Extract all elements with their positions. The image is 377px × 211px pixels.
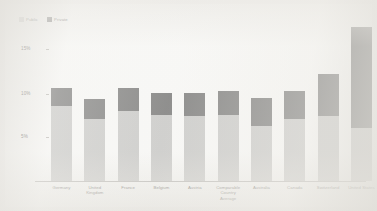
bar-segment-public[interactable] (51, 106, 72, 181)
y-axis-tick-label-15: 15% (21, 46, 47, 52)
x-axis-label: Belgium (146, 185, 176, 201)
bar-stack[interactable] (118, 88, 139, 181)
bar-segment-private[interactable] (151, 93, 172, 115)
x-axis-line (35, 181, 366, 182)
bar-segment-public[interactable] (284, 119, 305, 181)
bar-segment-private[interactable] (351, 27, 372, 128)
bar-segment-private[interactable] (184, 93, 205, 116)
legend-label-public: Public (26, 17, 38, 22)
x-axis-label: United States (346, 185, 376, 201)
bar-segment-public[interactable] (184, 116, 205, 181)
legend-item-public[interactable]: Public (19, 17, 38, 22)
x-axis-label: Australia (246, 185, 276, 201)
x-axis-labels: GermanyUnited KingdomFranceBelgiumAustri… (51, 185, 372, 201)
bar-column[interactable] (318, 26, 339, 181)
chart-canvas: Public Private 15% 10% 5% GermanyUnited … (5, 4, 372, 207)
bar-stack[interactable] (351, 27, 372, 181)
y-axis-tick-label-10: 10% (21, 91, 47, 97)
bar-segment-private[interactable] (218, 91, 239, 115)
bar-segment-private[interactable] (51, 88, 72, 106)
x-axis-label: Austria (180, 185, 210, 201)
x-axis-label: Germany (47, 185, 77, 201)
x-axis-label: Switzerland (313, 185, 343, 201)
bar-segment-public[interactable] (84, 119, 105, 181)
bar-stack[interactable] (151, 93, 172, 181)
legend-swatch-public-icon (19, 17, 24, 22)
bar-segment-private[interactable] (118, 88, 139, 112)
bar-column[interactable] (51, 26, 72, 181)
y-axis-tick-label-5: 5% (21, 134, 47, 140)
bar-segment-public[interactable] (251, 126, 272, 181)
bar-column[interactable] (218, 26, 239, 181)
bar-column[interactable] (284, 26, 305, 181)
bar-segment-public[interactable] (151, 115, 172, 181)
bar-column[interactable] (84, 26, 105, 181)
bar-segment-private[interactable] (318, 74, 339, 116)
bar-stack[interactable] (318, 74, 339, 181)
bar-segment-private[interactable] (284, 91, 305, 118)
bar-stack[interactable] (284, 91, 305, 181)
legend-label-private: Private (54, 17, 68, 22)
bar-stack[interactable] (84, 99, 105, 181)
x-axis-label: Canada (280, 185, 310, 201)
x-axis-label: France (113, 185, 143, 201)
bar-stack[interactable] (251, 98, 272, 181)
legend-item-private[interactable]: Private (47, 17, 68, 22)
x-axis-label: Comparable Country Average (213, 185, 243, 201)
bar-segment-public[interactable] (351, 128, 372, 181)
bar-segment-public[interactable] (318, 116, 339, 181)
x-axis-label: United Kingdom (80, 185, 110, 201)
bar-segment-private[interactable] (251, 98, 272, 125)
bar-series-container (51, 26, 372, 181)
y-axis-tick-mark-15 (46, 49, 49, 50)
bar-stack[interactable] (218, 91, 239, 181)
legend-swatch-private-icon (47, 17, 52, 22)
bar-segment-private[interactable] (84, 99, 105, 118)
chart-screenshot: Public Private 15% 10% 5% GermanyUnited … (0, 0, 377, 211)
bar-column[interactable] (351, 26, 372, 181)
bar-column[interactable] (184, 26, 205, 181)
y-axis-tick-mark-10 (46, 94, 49, 95)
bar-stack[interactable] (51, 88, 72, 181)
bar-column[interactable] (251, 26, 272, 181)
chart-legend: Public Private (19, 15, 68, 23)
bar-column[interactable] (151, 26, 172, 181)
bar-segment-public[interactable] (218, 115, 239, 181)
bar-stack[interactable] (184, 93, 205, 181)
y-axis-tick-mark-5 (46, 137, 49, 138)
bar-segment-public[interactable] (118, 111, 139, 181)
bar-column[interactable] (118, 26, 139, 181)
